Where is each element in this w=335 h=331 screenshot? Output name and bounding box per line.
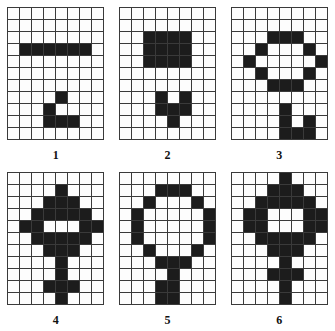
grid-cell[interactable]	[8, 197, 19, 208]
grid-cell[interactable]	[280, 20, 291, 31]
grid-cell[interactable]	[256, 128, 267, 139]
grid-cell[interactable]	[44, 56, 55, 67]
grid-cell[interactable]	[244, 20, 255, 31]
grid-cell[interactable]	[292, 68, 303, 79]
grid-cell[interactable]	[316, 20, 327, 31]
grid-cell[interactable]	[316, 197, 327, 208]
grid-cell[interactable]	[304, 173, 315, 184]
pattern-panel-5[interactable]: 5	[115, 172, 219, 326]
grid-cell[interactable]	[304, 233, 315, 244]
grid-cell[interactable]	[32, 209, 43, 220]
grid-cell[interactable]	[156, 44, 167, 55]
grid-cell[interactable]	[32, 257, 43, 268]
grid-cell[interactable]	[156, 68, 167, 79]
grid-cell[interactable]	[232, 104, 243, 115]
grid-cell[interactable]	[44, 92, 55, 103]
grid-cell[interactable]	[192, 8, 203, 19]
grid-cell[interactable]	[132, 44, 143, 55]
grid-cell[interactable]	[56, 68, 67, 79]
grid-cell[interactable]	[168, 293, 179, 304]
grid-cell[interactable]	[80, 80, 91, 91]
grid-cell[interactable]	[256, 293, 267, 304]
grid-cell[interactable]	[120, 20, 131, 31]
grid-cell[interactable]	[156, 32, 167, 43]
grid-cell[interactable]	[244, 128, 255, 139]
grid-cell[interactable]	[120, 281, 131, 292]
grid-cell[interactable]	[180, 8, 191, 19]
grid-cell[interactable]	[316, 209, 327, 220]
grid-cell[interactable]	[92, 56, 103, 67]
grid-cell[interactable]	[244, 56, 255, 67]
pattern-panel-1[interactable]: 1	[4, 7, 108, 161]
grid-cell[interactable]	[32, 68, 43, 79]
grid-cell[interactable]	[192, 221, 203, 232]
grid-cell[interactable]	[192, 197, 203, 208]
grid-cell[interactable]	[244, 269, 255, 280]
grid-cell[interactable]	[156, 185, 167, 196]
grid-cell[interactable]	[292, 233, 303, 244]
grid-cell[interactable]	[144, 233, 155, 244]
grid-cell[interactable]	[56, 293, 67, 304]
grid-cell[interactable]	[268, 8, 279, 19]
pattern-grid-1[interactable]	[7, 7, 104, 140]
grid-cell[interactable]	[44, 173, 55, 184]
grid-cell[interactable]	[232, 173, 243, 184]
grid-cell[interactable]	[80, 173, 91, 184]
grid-cell[interactable]	[268, 128, 279, 139]
grid-cell[interactable]	[92, 185, 103, 196]
grid-cell[interactable]	[144, 56, 155, 67]
grid-cell[interactable]	[68, 185, 79, 196]
grid-cell[interactable]	[120, 128, 131, 139]
grid-cell[interactable]	[156, 92, 167, 103]
grid-cell[interactable]	[292, 281, 303, 292]
grid-cell[interactable]	[32, 44, 43, 55]
grid-cell[interactable]	[256, 281, 267, 292]
grid-cell[interactable]	[232, 56, 243, 67]
grid-cell[interactable]	[168, 269, 179, 280]
grid-cell[interactable]	[168, 257, 179, 268]
grid-cell[interactable]	[268, 233, 279, 244]
grid-cell[interactable]	[56, 104, 67, 115]
grid-cell[interactable]	[132, 32, 143, 43]
grid-cell[interactable]	[120, 197, 131, 208]
grid-cell[interactable]	[156, 104, 167, 115]
grid-cell[interactable]	[232, 8, 243, 19]
grid-cell[interactable]	[180, 116, 191, 127]
grid-cell[interactable]	[92, 44, 103, 55]
grid-cell[interactable]	[20, 56, 31, 67]
grid-cell[interactable]	[120, 92, 131, 103]
grid-cell[interactable]	[256, 269, 267, 280]
grid-cell[interactable]	[44, 116, 55, 127]
grid-cell[interactable]	[316, 245, 327, 256]
grid-cell[interactable]	[80, 293, 91, 304]
grid-cell[interactable]	[132, 173, 143, 184]
grid-cell[interactable]	[20, 32, 31, 43]
grid-cell[interactable]	[68, 104, 79, 115]
grid-cell[interactable]	[180, 269, 191, 280]
grid-cell[interactable]	[32, 104, 43, 115]
grid-cell[interactable]	[192, 32, 203, 43]
grid-cell[interactable]	[244, 173, 255, 184]
grid-cell[interactable]	[256, 221, 267, 232]
grid-cell[interactable]	[268, 173, 279, 184]
grid-cell[interactable]	[80, 281, 91, 292]
grid-cell[interactable]	[304, 44, 315, 55]
grid-cell[interactable]	[144, 257, 155, 268]
grid-cell[interactable]	[44, 293, 55, 304]
grid-cell[interactable]	[44, 32, 55, 43]
grid-cell[interactable]	[316, 128, 327, 139]
pattern-grid-4[interactable]	[7, 172, 104, 305]
grid-cell[interactable]	[292, 293, 303, 304]
grid-cell[interactable]	[20, 221, 31, 232]
grid-cell[interactable]	[8, 80, 19, 91]
grid-cell[interactable]	[304, 20, 315, 31]
grid-cell[interactable]	[304, 185, 315, 196]
pattern-grid-2[interactable]	[119, 7, 216, 140]
grid-cell[interactable]	[180, 92, 191, 103]
grid-cell[interactable]	[32, 197, 43, 208]
grid-cell[interactable]	[56, 281, 67, 292]
grid-cell[interactable]	[44, 128, 55, 139]
grid-cell[interactable]	[304, 56, 315, 67]
grid-cell[interactable]	[232, 128, 243, 139]
grid-cell[interactable]	[292, 92, 303, 103]
